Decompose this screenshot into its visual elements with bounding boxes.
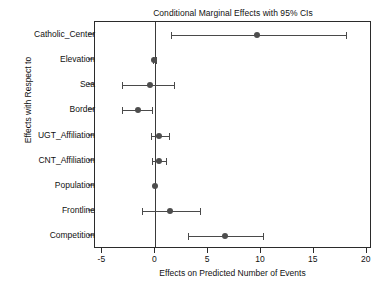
- point-estimate-marker: [156, 133, 162, 139]
- x-tick-mark: [313, 248, 314, 253]
- point-estimate-marker: [152, 183, 158, 189]
- ci-lower-cap: [171, 32, 172, 39]
- marginal-effects-chart: Conditional Marginal Effects with 95% CI…: [0, 0, 384, 284]
- x-tick-mark: [260, 248, 261, 253]
- x-tick-mark: [207, 248, 208, 253]
- ci-upper-cap: [346, 32, 347, 39]
- ci-upper-cap: [263, 233, 264, 240]
- ci-lower-cap: [142, 208, 143, 215]
- point-estimate-marker: [156, 158, 162, 164]
- chart-title: Conditional Marginal Effects with 95% CI…: [94, 8, 372, 18]
- y-tick-label: Catholic_Center: [34, 29, 95, 39]
- x-axis-title: Effects on Predicted Number of Events: [94, 268, 371, 278]
- ci-lower-cap: [122, 107, 123, 114]
- y-tick-label: Border: [69, 104, 95, 114]
- y-tick-label: Population: [55, 180, 95, 190]
- x-tick-label: 20: [361, 254, 370, 264]
- y-tick-label: Elevation: [60, 54, 95, 64]
- ci-upper-cap: [174, 82, 175, 89]
- plot-area: [94, 21, 371, 248]
- x-tick-mark: [366, 248, 367, 253]
- point-estimate-marker: [222, 233, 228, 239]
- ci-lower-cap: [122, 82, 123, 89]
- point-estimate-marker: [147, 82, 153, 88]
- x-tick-label: 15: [308, 254, 317, 264]
- ci-upper-cap: [152, 107, 153, 114]
- x-tick-mark: [154, 248, 155, 253]
- x-tick-label: 10: [255, 254, 264, 264]
- x-tick-label: 0: [152, 254, 157, 264]
- ci-upper-cap: [169, 133, 170, 140]
- y-tick-label: CNT_Affiliation: [38, 155, 95, 165]
- point-estimate-marker: [151, 57, 157, 63]
- x-tick-label: 5: [205, 254, 210, 264]
- x-tick-mark: [101, 248, 102, 253]
- y-tick-label: Sea: [80, 79, 95, 89]
- y-axis-title: Effects with Respect to: [23, 20, 33, 180]
- x-tick-label: -5: [98, 254, 106, 264]
- y-tick-label: Competition: [50, 230, 95, 240]
- ci-lower-cap: [151, 133, 152, 140]
- point-estimate-marker: [135, 107, 141, 113]
- point-estimate-marker: [167, 208, 173, 214]
- point-estimate-marker: [254, 32, 260, 38]
- ci-upper-cap: [166, 158, 167, 165]
- y-tick-label: UGT_Affiliation: [38, 130, 95, 140]
- ci-lower-cap: [152, 158, 153, 165]
- ci-lower-cap: [188, 233, 189, 240]
- y-tick-label: Frontline: [62, 205, 95, 215]
- ci-upper-cap: [200, 208, 201, 215]
